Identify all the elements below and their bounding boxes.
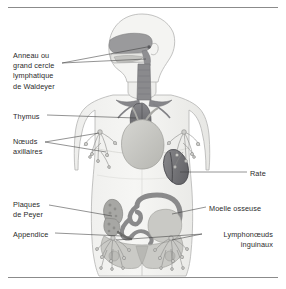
label-waldeyer: Anneau ou grand cercle lymphatique de Wa… — [13, 51, 55, 92]
label-noeuds-axillaires: Nœuds axillaires — [13, 137, 42, 157]
label-moelle-osseuse: Moelle osseuse — [209, 204, 261, 214]
label-plaques-de-peyer: Plaques de Peyer — [13, 200, 43, 220]
label-rate: Rate — [250, 169, 266, 179]
label-lymphonoeuds-inguinaux: Lymphonœuds inguinaux — [205, 230, 273, 250]
lymphatic-system-figure: Anneau ou grand cercle lymphatique de Wa… — [0, 0, 286, 289]
label-appendice: Appendice — [13, 230, 48, 240]
label-thymus: Thymus — [13, 112, 40, 122]
waldeyer-ring-region — [109, 33, 152, 66]
